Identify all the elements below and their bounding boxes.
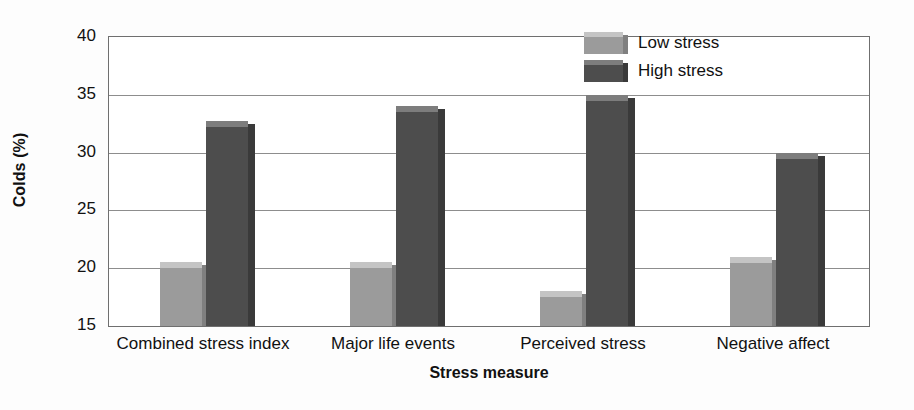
bar-high-stress bbox=[396, 106, 438, 326]
bar-high-stress bbox=[586, 95, 628, 326]
plot-area bbox=[108, 36, 870, 327]
legend-swatch-high-stress-icon bbox=[584, 60, 628, 82]
x-axis-tick-label: Combined stress index bbox=[117, 334, 290, 354]
x-axis-tick-label: Major life events bbox=[331, 334, 455, 354]
x-axis-title: Stress measure bbox=[108, 364, 870, 382]
chart-legend: Low stress High stress bbox=[580, 28, 727, 86]
y-axis-tick-label: 15 bbox=[77, 315, 96, 335]
y-axis-tick-label: 30 bbox=[77, 142, 96, 162]
bar-low-stress bbox=[350, 262, 392, 326]
x-axis-tick-label: Negative affect bbox=[716, 334, 829, 354]
bars-layer bbox=[109, 37, 869, 326]
y-axis-tick-label: 20 bbox=[77, 257, 96, 277]
bar-high-stress bbox=[206, 121, 248, 326]
x-axis-tick-labels: Combined stress indexMajor life eventsPe… bbox=[108, 334, 870, 362]
y-axis-tick-label: 40 bbox=[77, 26, 96, 46]
legend-label-high-stress: High stress bbox=[638, 61, 723, 81]
legend-item-low-stress: Low stress bbox=[584, 30, 723, 56]
bar-low-stress bbox=[160, 262, 202, 326]
bar-high-stress bbox=[776, 153, 818, 326]
y-axis-tick-label: 25 bbox=[77, 199, 96, 219]
bar-group bbox=[350, 37, 438, 326]
legend-label-low-stress: Low stress bbox=[638, 33, 719, 53]
bar-group bbox=[160, 37, 248, 326]
legend-item-high-stress: High stress bbox=[584, 58, 723, 84]
bar-low-stress bbox=[540, 291, 582, 326]
y-axis-tick-label: 35 bbox=[77, 84, 96, 104]
bar-chart: Colds (%) 152025303540 Low stress High s… bbox=[0, 0, 914, 410]
y-axis-title-text: Colds (%) bbox=[11, 133, 29, 208]
bar-group bbox=[730, 37, 818, 326]
gridline bbox=[109, 326, 869, 327]
legend-swatch-low-stress-icon bbox=[584, 32, 628, 54]
y-axis-title: Colds (%) bbox=[0, 0, 40, 340]
y-axis-tick-labels: 152025303540 bbox=[52, 0, 102, 410]
x-axis-tick-label: Perceived stress bbox=[520, 334, 646, 354]
bar-low-stress bbox=[730, 257, 772, 326]
